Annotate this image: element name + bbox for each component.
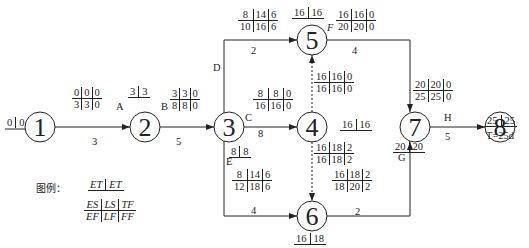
activity-A-name: A	[116, 101, 124, 112]
activity-G-name: G	[398, 152, 406, 163]
activity-G-params: 16182 18202	[332, 169, 372, 192]
node-8-et: 2525	[485, 115, 517, 127]
activity-F-params: 16160 20200	[336, 9, 376, 32]
activity-E-duration: 4	[251, 205, 256, 216]
node-6-et: 1618	[294, 233, 326, 245]
node-4-label: 4	[306, 113, 319, 142]
activity-D-params: 8146 10166	[238, 9, 278, 32]
activity-F-duration: 4	[352, 45, 357, 56]
node-2-et: 33	[128, 86, 150, 98]
node-6-label: 6	[306, 202, 319, 231]
activity-D-duration: 2	[251, 45, 256, 56]
activity-A-duration: 3	[92, 136, 97, 147]
activity-B-duration: 5	[176, 136, 181, 147]
activity-E-name: E	[226, 156, 232, 167]
activity-H-name: H	[444, 112, 452, 123]
activity-D-name: D	[213, 62, 221, 73]
activity-A-params: 000 330	[72, 87, 102, 110]
node-1-label: 1	[34, 113, 47, 142]
legend-title: 图例：	[36, 183, 66, 194]
dummy-4-5-params: 16160 16160	[314, 71, 354, 94]
network-diagram: 1 2 3 4 5 6 7 8 00 33 88 1616 1616 1618 …	[0, 0, 529, 248]
total-duration: T=25d	[486, 130, 514, 141]
node-5-et: 1616	[292, 7, 324, 19]
activity-B-params: 330 880	[170, 88, 200, 111]
activity-C-duration: 8	[258, 128, 263, 139]
node-4-et: 1616	[340, 119, 372, 131]
activity-E-params: 8146 12186	[232, 169, 272, 192]
node-7-label: 7	[409, 113, 422, 142]
activity-G-duration: 2	[355, 206, 360, 217]
node-1-et: 00	[5, 117, 27, 128]
activity-H-duration: 5	[445, 131, 450, 142]
legend-et: ETET	[88, 179, 124, 191]
activity-C-name: C	[245, 112, 252, 123]
activity-B-name: B	[161, 101, 168, 112]
legend-params: ESLSTF EFLFFF	[84, 199, 136, 222]
dummy-4-6-params: 16182 16182	[314, 142, 354, 165]
activity-C-params: 880 16160	[253, 88, 293, 111]
node-5-label: 5	[306, 26, 319, 55]
node-2-label: 2	[139, 113, 152, 142]
activity-H-params: 20200 25250	[413, 79, 453, 102]
activity-F-name: F	[327, 22, 333, 33]
diagram-lines: 1 2 3 4 5 6 7 8	[0, 0, 529, 248]
node-3-label: 3	[223, 113, 236, 142]
